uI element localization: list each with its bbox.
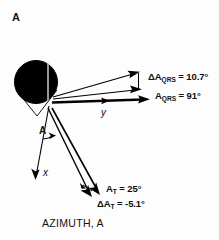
azimuth-figure: A y x A ΔAQRS = 10.7° AQRS = 91° AT = 25…	[0, 0, 219, 240]
a-qrs-arrowhead	[130, 85, 142, 93]
a-t-symbol: A	[106, 183, 113, 194]
azimuth-angle-label: A	[39, 126, 46, 136]
a-qrs-subscript: QRS	[162, 95, 176, 102]
delta-a-t-vector	[48, 108, 92, 197]
a-qrs-line	[53, 90, 135, 99]
sphere-graphic	[10, 61, 62, 113]
delta-a-qrs-line	[53, 74, 133, 97]
a-qrs-annotation: AQRS = 91°	[155, 91, 201, 101]
delta-a-qrs-vector	[53, 71, 140, 97]
delta-a-t-symbol: ΔA	[97, 198, 111, 209]
panel-label: A	[12, 12, 20, 23]
x-axis-label: x	[43, 168, 48, 178]
a-qrs-symbol: A	[155, 90, 162, 101]
azimuth-arc-arrowhead	[49, 132, 57, 139]
delta-a-t-value: -5.1°	[125, 198, 145, 209]
delta-a-qrs-equals: =	[176, 71, 187, 82]
a-t-vector	[52, 108, 100, 195]
a-qrs-equals: =	[176, 90, 187, 101]
a-qrs-value: 91°	[187, 90, 201, 101]
a-t-annotation: AT = 25°	[106, 184, 141, 194]
delta-a-t-annotation: ΔAT = -5.1°	[97, 199, 145, 209]
figure-caption: AZIMUTH, A	[42, 218, 104, 229]
delta-a-qrs-subscript: QRS	[162, 76, 176, 83]
delta-a-t-subscript: T	[111, 203, 115, 210]
a-t-value: 25°	[127, 183, 141, 194]
a-qrs-vector	[53, 85, 142, 99]
y-axis-label: y	[101, 108, 106, 118]
x-axis-arrowhead	[31, 169, 39, 181]
delta-a-t-line	[48, 108, 87, 188]
a-t-equals: =	[117, 183, 128, 194]
y-axis-line	[52, 100, 143, 103]
delta-a-qrs-symbol: ΔA	[148, 71, 162, 82]
delta-a-qrs-annotation: ΔAQRS = 10.7°	[148, 72, 208, 82]
a-t-line	[52, 108, 95, 186]
delta-a-qrs-value: 10.7°	[186, 71, 208, 82]
delta-a-t-equals: =	[115, 198, 126, 209]
y-axis-vector	[52, 95, 150, 104]
a-t-subscript: T	[113, 188, 117, 195]
